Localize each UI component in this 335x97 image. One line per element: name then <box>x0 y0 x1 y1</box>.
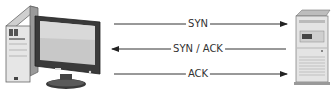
handshake-diagram: SYN SYN / ACK ACK <box>0 0 335 97</box>
ack-label: ACK <box>186 68 210 80</box>
message-arrows <box>0 0 335 97</box>
server-icon <box>290 0 335 97</box>
synack-label: SYN / ACK <box>171 43 225 55</box>
syn-label: SYN <box>186 18 210 30</box>
